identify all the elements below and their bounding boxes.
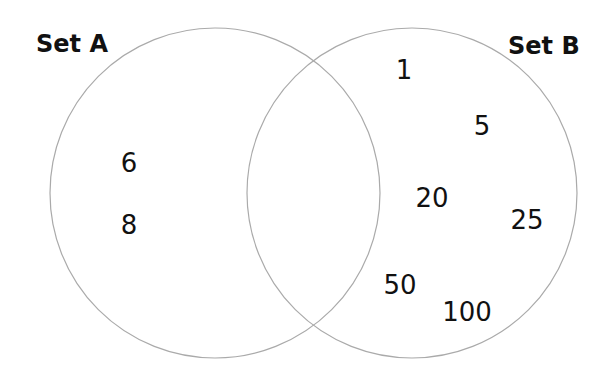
set-a-circle: [50, 28, 380, 358]
set-b-element: 20: [415, 183, 448, 213]
set-b-element: 100: [442, 297, 492, 327]
set-b-element: 5: [474, 111, 491, 141]
set-b-element: 25: [510, 205, 543, 235]
set-b-element: 50: [383, 270, 416, 300]
set-a-element: 6: [121, 148, 138, 178]
set-b-label: Set B: [508, 32, 580, 60]
set-b-element: 1: [396, 55, 413, 85]
set-a-element: 8: [121, 210, 138, 240]
set-a-label: Set A: [36, 30, 108, 58]
